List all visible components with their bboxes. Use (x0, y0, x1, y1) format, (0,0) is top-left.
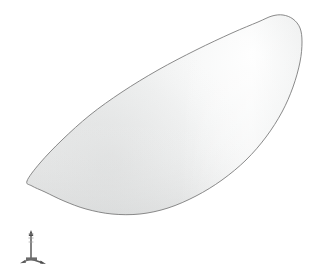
axis-y-up (28, 230, 33, 259)
3d-model-viewport[interactable] (0, 0, 316, 274)
orientation-triad (16, 228, 50, 264)
triad-origin-block (26, 257, 37, 260)
